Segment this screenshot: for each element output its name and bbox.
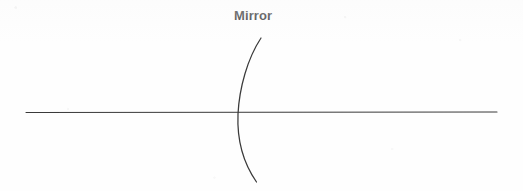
concave-mirror-arc [238,38,261,182]
optical-axis-line [26,112,497,113]
mirror-diagram-figure: Mirror [0,0,523,191]
mirror-label: Mirror [234,8,272,23]
diagram-canvas [0,0,523,191]
